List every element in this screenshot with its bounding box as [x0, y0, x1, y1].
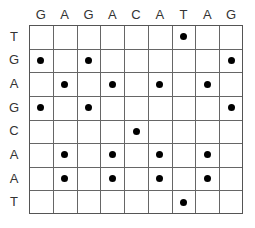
grid-line	[30, 120, 242, 121]
match-dot	[228, 104, 235, 111]
grid-line	[30, 96, 242, 97]
match-dot	[204, 151, 211, 158]
column-label: A	[148, 8, 172, 22]
match-dot	[156, 151, 163, 158]
grid-line	[30, 190, 242, 191]
match-dot	[109, 175, 116, 182]
match-dot	[180, 199, 187, 206]
row-label: G	[6, 101, 22, 115]
row-label: A	[6, 77, 22, 91]
row-label: T	[6, 30, 22, 44]
grid-line	[30, 49, 242, 50]
match-dot	[228, 57, 235, 64]
match-dot	[133, 128, 140, 135]
match-dot	[156, 81, 163, 88]
grid-line	[30, 167, 242, 168]
grid-line	[30, 143, 242, 144]
match-dot	[156, 175, 163, 182]
match-dot	[180, 33, 187, 40]
row-label: A	[6, 148, 22, 162]
column-label: G	[29, 8, 53, 22]
match-dot	[37, 57, 44, 64]
match-dot	[85, 57, 92, 64]
match-dot	[109, 151, 116, 158]
dot-plot-grid	[29, 25, 243, 214]
row-label: C	[6, 124, 22, 138]
match-dot	[61, 81, 68, 88]
match-dot	[61, 151, 68, 158]
column-label: A	[53, 8, 77, 22]
row-label: G	[6, 53, 22, 67]
column-label: T	[172, 8, 196, 22]
column-label: G	[219, 8, 243, 22]
grid-line	[30, 72, 242, 73]
match-dot	[37, 104, 44, 111]
column-label: G	[76, 8, 100, 22]
match-dot	[61, 175, 68, 182]
row-label: A	[6, 172, 22, 186]
column-label: A	[100, 8, 124, 22]
match-dot	[85, 104, 92, 111]
column-label: A	[195, 8, 219, 22]
column-label: C	[124, 8, 148, 22]
match-dot	[109, 81, 116, 88]
row-label: T	[6, 195, 22, 209]
match-dot	[204, 81, 211, 88]
match-dot	[204, 175, 211, 182]
